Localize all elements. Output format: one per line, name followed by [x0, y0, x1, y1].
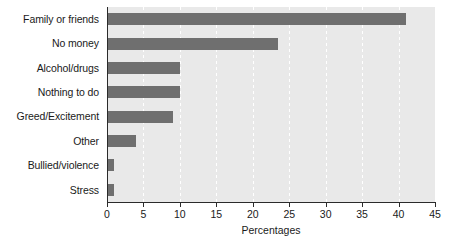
- bar: [107, 62, 180, 74]
- bar-row: [107, 56, 435, 80]
- category-axis-labels: Family or friends No money Alcohol/drugs…: [0, 7, 103, 202]
- category-label: Bullied/violence: [0, 153, 103, 177]
- category-label: No money: [0, 31, 103, 55]
- bar-row: [107, 7, 435, 31]
- bars-group: [107, 7, 435, 202]
- bar-row: [107, 31, 435, 55]
- x-axis-tick-labels: 051015202530354045: [107, 207, 435, 221]
- x-axis-tick-label: 0: [104, 207, 110, 221]
- bar-row: [107, 105, 435, 129]
- bar-chart: Family or friends No money Alcohol/drugs…: [0, 0, 455, 250]
- x-axis-tick-label: 5: [141, 207, 147, 221]
- bar: [107, 38, 278, 50]
- gridline: [435, 7, 436, 202]
- category-label: Nothing to do: [0, 80, 103, 104]
- x-axis-tick-label: 25: [283, 207, 295, 221]
- x-axis-tick-label: 30: [320, 207, 332, 221]
- plot-area: [107, 7, 435, 202]
- y-axis-line: [107, 7, 108, 203]
- bar-row: [107, 178, 435, 202]
- bar-row: [107, 129, 435, 153]
- category-label: Greed/Excitement: [0, 105, 103, 129]
- category-label: Family or friends: [0, 7, 103, 31]
- x-axis-tick-label: 40: [393, 207, 405, 221]
- category-label: Other: [0, 129, 103, 153]
- x-axis-tick-label: 20: [247, 207, 259, 221]
- category-label: Stress: [0, 178, 103, 202]
- x-axis-tick-label: 15: [210, 207, 222, 221]
- bar: [107, 86, 180, 98]
- x-axis-tick-label: 35: [356, 207, 368, 221]
- bar: [107, 13, 406, 25]
- x-axis-tick-label: 45: [429, 207, 441, 221]
- category-label: Alcohol/drugs: [0, 56, 103, 80]
- bar-row: [107, 80, 435, 104]
- bar: [107, 184, 114, 196]
- bar: [107, 111, 173, 123]
- bar: [107, 135, 136, 147]
- x-axis-title: Percentages: [107, 224, 435, 236]
- bar-row: [107, 153, 435, 177]
- bar: [107, 159, 114, 171]
- x-axis-tick-label: 10: [174, 207, 186, 221]
